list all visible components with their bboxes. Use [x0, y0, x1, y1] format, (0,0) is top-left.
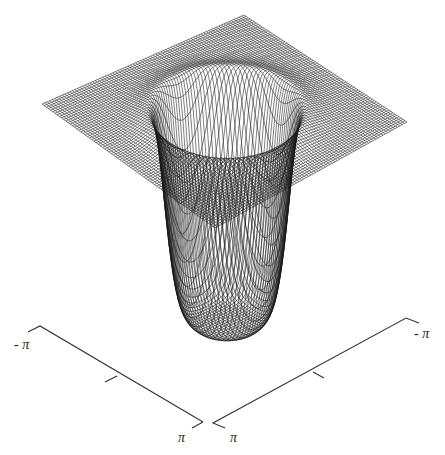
wireframe-mesh: [42, 15, 407, 341]
left-axis-end-tick: [192, 422, 203, 428]
left-axis-start-label: - π: [14, 337, 29, 353]
right-axis-end-label: - π: [414, 326, 429, 342]
surface-plot: [0, 0, 445, 455]
left-axis-line: [28, 326, 203, 422]
mesh-lines: [42, 15, 407, 341]
right-axis-mid-tick: [313, 372, 324, 378]
left-axis: [28, 326, 203, 428]
left-axis-end-label: π: [178, 430, 185, 446]
right-axis-start-label: π: [230, 430, 237, 446]
left-axis-mid-tick: [105, 376, 117, 382]
